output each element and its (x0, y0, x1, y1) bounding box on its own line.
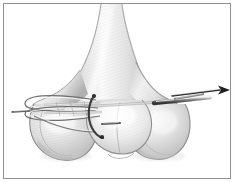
surgical-illustration (4, 4, 230, 178)
figure-frame: Distal femur with transcondylar guide pi… (0, 0, 234, 182)
